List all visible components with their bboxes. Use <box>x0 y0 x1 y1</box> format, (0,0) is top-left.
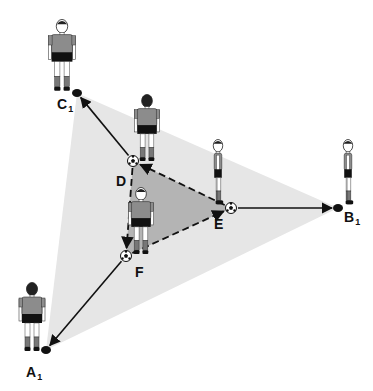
jersey <box>22 297 42 315</box>
shorts <box>52 52 73 61</box>
label-C1: C1 <box>57 96 73 114</box>
label-A1: A1 <box>26 364 42 382</box>
shorts <box>131 218 150 227</box>
shorts <box>344 169 352 178</box>
cone-marker-A1 <box>41 346 51 354</box>
jersey <box>131 202 150 220</box>
player-C <box>48 19 75 90</box>
label-E: E <box>214 216 223 232</box>
label-D: D <box>116 173 126 189</box>
shorts <box>137 125 156 134</box>
drill-diagram: C1B1A1DEF <box>0 0 373 391</box>
player-A <box>19 283 45 352</box>
player-B <box>343 140 353 205</box>
shorts <box>22 314 42 323</box>
cone-marker-C1 <box>72 89 82 97</box>
shorts <box>214 169 222 178</box>
jersey <box>137 109 156 127</box>
cone-marker-B1 <box>333 204 343 212</box>
soccer-ball-icon <box>226 202 237 213</box>
label-B1: B1 <box>344 209 360 227</box>
soccer-ball-icon <box>121 250 132 261</box>
soccer-ball-icon <box>128 155 139 166</box>
label-F: F <box>135 264 144 280</box>
jersey <box>52 35 73 54</box>
